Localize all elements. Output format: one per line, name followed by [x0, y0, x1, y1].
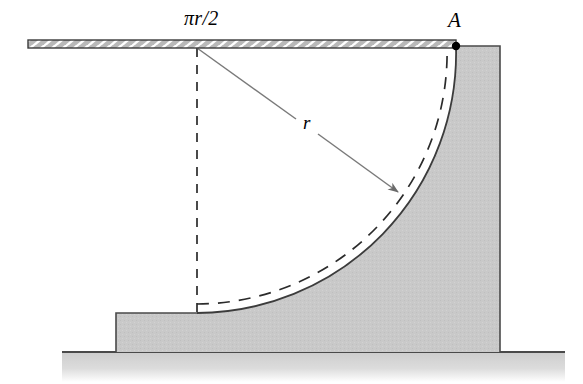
- radius-label: r: [300, 113, 313, 132]
- arc-length-label: πr/2: [184, 8, 219, 28]
- mechanics-figure: πr/2 A r: [0, 0, 583, 384]
- point-a-label: A: [448, 10, 461, 31]
- point-marker-dot-icon: [452, 42, 460, 50]
- cam-body: [116, 46, 500, 352]
- radius-arrow-icon: [197, 48, 398, 192]
- ground-surface-icon: [62, 352, 565, 382]
- hatched-bar-icon: [28, 40, 456, 48]
- figure-canvas: [0, 0, 583, 384]
